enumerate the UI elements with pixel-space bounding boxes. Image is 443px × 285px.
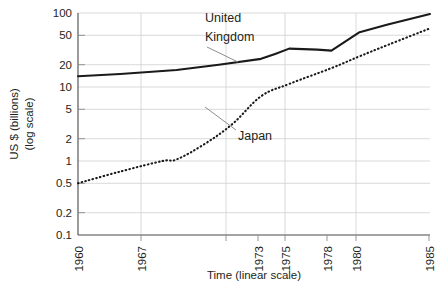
y-tick-label-0.5: 0.5 — [56, 177, 72, 189]
series-line-japan — [78, 28, 430, 183]
y-tick-label-50: 50 — [59, 29, 72, 41]
y-tick-label-1: 1 — [66, 155, 72, 167]
x-tick-label-1967: 1967 — [136, 246, 148, 272]
x-tick-label-1960: 1960 — [73, 246, 85, 272]
x-gridlines — [141, 13, 356, 235]
y-tick-label-0.2: 0.2 — [56, 207, 72, 219]
leader-line-united-kingdom — [207, 47, 238, 62]
y-tick-label-10: 10 — [59, 81, 72, 93]
chart-container: 100 50 20 10 5 2 1 0.5 0.2 0.1 1960 1967… — [0, 0, 443, 285]
x-tick-marks — [141, 235, 429, 241]
y-tick-marks — [78, 35, 85, 212]
leader-line-japan — [205, 107, 236, 130]
series-label-japan: Japan — [238, 129, 272, 143]
series-line-united-kingdom — [78, 14, 430, 76]
x-tick-labels: 1960 1967 1973 1975 1978 1980 1985 — [73, 246, 436, 272]
x-tick-label-1973: 1973 — [253, 246, 265, 272]
y-tick-label-0.1: 0.1 — [56, 229, 72, 241]
y-tick-label-100: 100 — [53, 7, 72, 19]
y-tick-label-5: 5 — [66, 103, 72, 115]
x-tick-label-1980: 1980 — [351, 246, 363, 272]
x-tick-label-1975: 1975 — [280, 246, 292, 272]
x-axis-title: Time (linear scale) — [207, 269, 301, 281]
x-tick-label-1985: 1985 — [424, 246, 436, 272]
line-chart: 100 50 20 10 5 2 1 0.5 0.2 0.1 1960 1967… — [0, 0, 443, 285]
annotation-united-kingdom: United Kingdom — [205, 11, 254, 62]
y-tick-labels: 100 50 20 10 5 2 1 0.5 0.2 0.1 — [53, 7, 72, 241]
y-tick-label-2: 2 — [66, 133, 72, 145]
series-label-united-kingdom-line2: Kingdom — [205, 30, 254, 44]
y-axis-title-line2: (log scale) — [23, 97, 35, 150]
y-tick-label-20: 20 — [59, 59, 72, 71]
x-tick-label-1978: 1978 — [322, 246, 334, 272]
y-axis-title-line1: US $ (billions) — [8, 88, 20, 160]
series-label-united-kingdom-line1: United — [205, 11, 241, 25]
